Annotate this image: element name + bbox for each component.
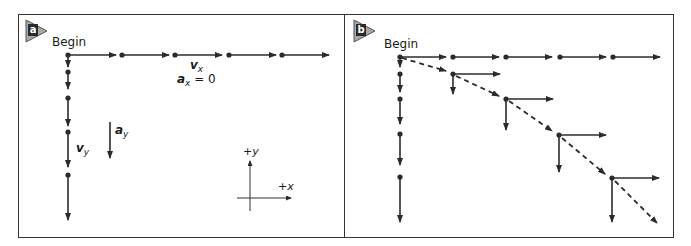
ay-subscript: y bbox=[123, 129, 128, 139]
ay-symbol: a bbox=[115, 123, 123, 137]
panel-a-badge-letter: a bbox=[28, 24, 38, 36]
vy-symbol: v bbox=[76, 141, 84, 155]
vy-label: vy bbox=[76, 141, 89, 157]
panel-b-badge-letter: b bbox=[356, 24, 366, 36]
vx-symbol: v bbox=[190, 58, 198, 72]
ax-symbol: a bbox=[177, 72, 185, 86]
panel-a-vertical-velocity-arrows bbox=[66, 53, 70, 220]
trajectory-velocity-components bbox=[451, 72, 659, 222]
vy-subscript: y bbox=[84, 147, 89, 157]
panel-a-begin-label: Begin bbox=[52, 35, 86, 49]
projectile-trajectory-dashed bbox=[402, 58, 657, 223]
ax-equation: ax = 0 bbox=[177, 72, 216, 88]
panel-b-badge: b bbox=[353, 19, 377, 43]
motion-vector-diagram bbox=[0, 0, 691, 246]
panel-b-horizontal-velocity-arrows bbox=[400, 55, 660, 59]
panel-a-horizontal-velocity-arrows bbox=[68, 53, 329, 57]
axis-y-label: +y bbox=[243, 145, 259, 158]
panel-b-begin-label: Begin bbox=[384, 37, 418, 51]
ay-label: ay bbox=[115, 123, 128, 139]
axis-x-label: +x bbox=[278, 180, 294, 193]
panel-a-badge: a bbox=[25, 19, 49, 43]
ax-value: = 0 bbox=[190, 72, 215, 86]
panel-b-vertical-velocity-arrows bbox=[398, 55, 402, 222]
